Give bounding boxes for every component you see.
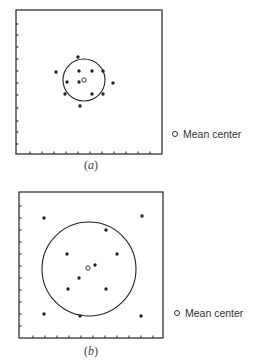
data-point	[90, 92, 93, 95]
data-point	[139, 314, 142, 317]
caption-b: (b)	[84, 344, 98, 359]
data-point	[78, 314, 81, 317]
data-point	[111, 81, 114, 84]
data-point	[115, 252, 118, 255]
legend-a: Mean center	[172, 128, 241, 140]
data-point	[42, 216, 45, 219]
legend-b: Mean center	[174, 307, 243, 319]
data-point	[77, 276, 80, 279]
mean-center-diagram	[0, 0, 253, 360]
data-point	[54, 70, 57, 73]
mean-center-marker	[82, 78, 86, 82]
data-point	[77, 69, 80, 72]
data-point	[66, 287, 69, 290]
data-point	[104, 228, 107, 231]
data-point	[101, 92, 104, 95]
data-point	[76, 55, 79, 58]
mean-center-marker-icon	[172, 131, 178, 137]
data-point	[65, 252, 68, 255]
caption-b-letter: b	[88, 344, 94, 358]
mean-center-marker-icon	[174, 310, 180, 316]
data-point	[104, 287, 107, 290]
data-point	[63, 92, 66, 95]
data-point	[42, 312, 45, 315]
data-point	[77, 80, 80, 83]
caption-a-letter: a	[88, 158, 94, 172]
data-point	[140, 214, 143, 217]
data-point	[78, 104, 81, 107]
caption-a: (a)	[84, 158, 98, 173]
data-point	[90, 69, 93, 72]
legend-b-label: Mean center	[185, 307, 243, 319]
data-point	[65, 80, 68, 83]
data-point	[101, 69, 104, 72]
legend-a-label: Mean center	[183, 128, 241, 140]
panel-a-frame	[16, 10, 162, 154]
data-point	[93, 263, 96, 266]
mean-center-marker	[86, 266, 90, 270]
